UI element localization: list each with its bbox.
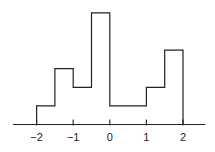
x-tick-label: −1 [67,131,80,143]
x-axis: −2−1012 [13,120,205,144]
histogram-outline [37,13,183,125]
x-tick-label: 2 [180,131,186,143]
x-tick-label: 1 [143,131,149,143]
x-tick-label: −2 [30,131,43,143]
histogram-chart: −2−1012 [0,0,215,152]
histogram-bars [37,13,183,125]
x-axis-tick-labels: −2−1012 [30,131,186,143]
x-tick-label: 0 [107,131,113,143]
